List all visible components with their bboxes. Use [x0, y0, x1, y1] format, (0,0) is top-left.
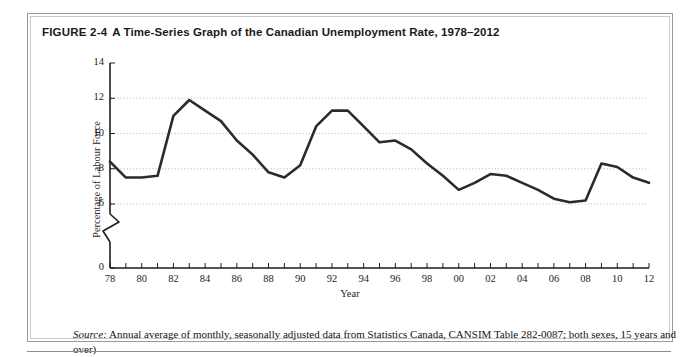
y-tick-label: 0: [82, 261, 104, 272]
source-note: Source: Annual average of monthly, seaso…: [73, 327, 685, 357]
x-tick-label: 96: [383, 273, 407, 284]
x-tick-label: 98: [415, 273, 439, 284]
y-tick-label: 12: [82, 91, 104, 102]
x-tick-label: 00: [447, 273, 471, 284]
x-tick-label: 86: [225, 273, 249, 284]
x-tick-label: 02: [478, 273, 502, 284]
x-tick-label: 82: [161, 273, 185, 284]
x-tick-label: 90: [288, 273, 312, 284]
x-tick-label: 78: [98, 273, 122, 284]
x-tick-label: 92: [320, 273, 344, 284]
x-tick-label: 04: [510, 273, 534, 284]
gridlines-group: [111, 98, 649, 204]
source-word: Source:: [73, 328, 107, 340]
x-tick-label: 94: [352, 273, 376, 284]
axis-ticks-group: [110, 63, 649, 268]
y-axis-title-wrapper: Percentage of Labour Force: [73, 54, 93, 254]
y-tick-label: 8: [82, 162, 104, 173]
y-axis-title: Percentage of Labour Force: [91, 120, 102, 240]
x-tick-label: 10: [605, 273, 629, 284]
y-tick-label: 10: [82, 127, 104, 138]
y-axis-break-marker: [103, 214, 119, 242]
x-tick-label: 80: [130, 273, 154, 284]
unemployment-rate-line: [110, 100, 649, 202]
y-tick-label: 6: [82, 197, 104, 208]
x-tick-label: 88: [257, 273, 281, 284]
x-axis-title: Year: [28, 288, 672, 299]
axis-group: [103, 63, 649, 268]
x-tick-label: 06: [542, 273, 566, 284]
chart-plot-area: Percentage of Labour Force Year 06810121…: [28, 14, 672, 341]
x-tick-label: 12: [637, 273, 661, 284]
data-series-group: [110, 100, 649, 202]
x-tick-label: 08: [574, 273, 598, 284]
bottom-rule: [27, 351, 671, 352]
x-tick-label: 84: [193, 273, 217, 284]
figure-frame: FIGURE 2-4A Time-Series Graph of the Can…: [27, 13, 673, 342]
y-tick-label: 14: [82, 56, 104, 67]
